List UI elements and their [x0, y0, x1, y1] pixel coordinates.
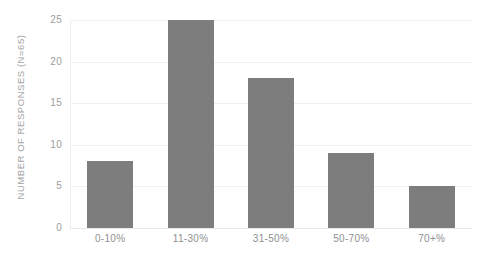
axis-baseline	[70, 228, 472, 229]
bar-slot	[311, 20, 391, 228]
bar-series	[70, 20, 472, 228]
bar[interactable]	[87, 161, 133, 228]
x-axis-tick-labels: 0-10%11-30%31-50%50-70%70+%	[70, 232, 472, 248]
bar[interactable]	[328, 153, 374, 228]
bar-slot	[392, 20, 472, 228]
y-tick-label: 10	[26, 139, 62, 151]
x-tick-label: 70+%	[392, 232, 472, 246]
x-tick-label: 11-30%	[150, 232, 230, 246]
bar[interactable]	[168, 20, 214, 228]
bar-slot	[231, 20, 311, 228]
cropped-caption	[104, 254, 404, 261]
plot-area	[70, 20, 472, 228]
x-tick-label: 31-50%	[231, 232, 311, 246]
bar[interactable]	[409, 186, 455, 228]
x-tick-label: 50-70%	[311, 232, 391, 246]
y-tick-label: 20	[26, 56, 62, 68]
y-tick-label: 5	[26, 180, 62, 192]
bar-slot	[70, 20, 150, 228]
x-tick-label: 0-10%	[70, 232, 150, 246]
y-axis-tick-labels: 0510152025	[26, 14, 62, 236]
bar[interactable]	[248, 78, 294, 228]
y-tick-label: 15	[26, 97, 62, 109]
bar-slot	[150, 20, 230, 228]
y-tick-label: 0	[26, 222, 62, 234]
y-tick-label: 25	[26, 14, 62, 26]
bar-chart: NUMBER OF RESPONSES (N=65) 0510152025 0-…	[0, 0, 488, 261]
